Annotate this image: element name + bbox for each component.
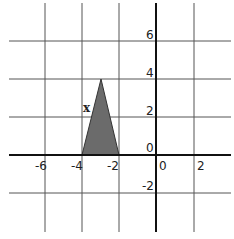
y-tick-0: 0 — [146, 141, 154, 155]
triangle-label: x — [83, 101, 91, 115]
y-tick-2: 2 — [146, 104, 154, 118]
y-tick-6: 6 — [146, 28, 154, 42]
x-tick-0: 0 — [159, 159, 167, 173]
x-tick-neg6: -6 — [35, 159, 47, 173]
y-tick-neg2: -2 — [142, 179, 154, 193]
coordinate-grid: x 6 4 2 0 -2 -6 -4 -2 0 2 — [0, 0, 234, 239]
y-tick-4: 4 — [146, 66, 154, 80]
x-tick-neg2: -2 — [107, 159, 119, 173]
x-tick-2: 2 — [197, 159, 205, 173]
x-tick-neg4: -4 — [71, 159, 83, 173]
